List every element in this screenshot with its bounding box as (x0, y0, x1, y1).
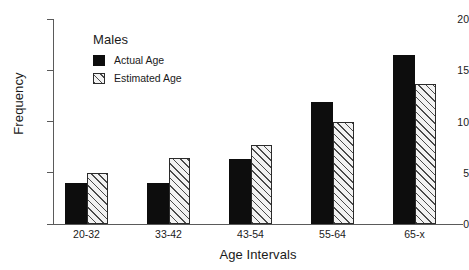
legend-item-actual-age: Actual Age (93, 54, 182, 66)
legend: Males Actual Age Estimated Age (93, 32, 182, 90)
bar-estimated-age (333, 122, 355, 225)
legend-swatch-estimated-age-icon (93, 73, 105, 84)
bar-chart: Frequency 05101520 20-3233-4243-5455-646… (0, 0, 469, 270)
x-axis-tick-label: 20-32 (57, 228, 117, 240)
bar-group (393, 19, 436, 224)
legend-label-actual-age: Actual Age (114, 54, 164, 66)
bar-estimated-age (415, 84, 437, 224)
legend-title: Males (93, 32, 182, 47)
bar-actual-age (147, 183, 169, 224)
bar-actual-age (229, 159, 251, 224)
bar-actual-age (393, 55, 415, 224)
x-axis-title: Age Intervals (53, 247, 463, 262)
legend-label-estimated-age: Estimated Age (114, 72, 182, 84)
bar-actual-age (65, 183, 87, 224)
x-axis-tick-label: 55-64 (303, 228, 363, 240)
x-axis-tick-label: 43-54 (221, 228, 281, 240)
bar-estimated-age (87, 173, 109, 224)
bar-group (229, 19, 272, 224)
bar-actual-age (311, 102, 333, 224)
legend-swatch-actual-age-icon (93, 55, 105, 66)
legend-item-estimated-age: Estimated Age (93, 72, 182, 84)
bar-estimated-age (169, 158, 191, 224)
x-axis-tick-label: 33-42 (139, 228, 199, 240)
bar-estimated-age (251, 145, 273, 224)
y-axis-title: Frequency (11, 44, 26, 164)
x-axis-tick-label: 65-x (385, 228, 445, 240)
bar-group (311, 19, 354, 224)
x-axis-line (53, 224, 463, 225)
